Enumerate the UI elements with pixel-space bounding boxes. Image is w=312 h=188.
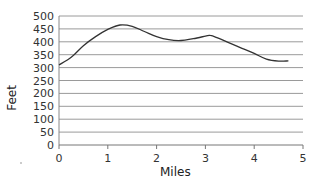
x-tick-label: 3 <box>202 152 209 165</box>
y-tick-label: 500 <box>33 10 54 23</box>
elevation-series-line <box>59 25 288 65</box>
y-axis-label: Feet <box>0 78 24 118</box>
y-axis-label-text: Feet <box>5 85 19 111</box>
y-tick-label: 250 <box>33 75 54 88</box>
y-tick-labels: 050100150200250300350400450500 <box>33 10 54 152</box>
x-tick-label: 2 <box>153 152 160 165</box>
y-tick-label: 50 <box>40 126 54 139</box>
y-tick-label: 300 <box>33 62 54 75</box>
x-tick-label: 1 <box>104 152 111 165</box>
y-tick-label: 350 <box>33 49 54 62</box>
x-tick-label: 0 <box>56 152 63 165</box>
stray-mark <box>20 162 22 164</box>
x-tick-labels: 012345 <box>56 152 307 165</box>
x-tick-label: 5 <box>300 152 307 165</box>
y-tick-label: 450 <box>33 23 54 36</box>
horizontal-gridlines <box>59 16 303 132</box>
y-tick-label: 150 <box>33 100 54 113</box>
x-axis-label: Miles <box>160 165 191 179</box>
y-tick-label: 100 <box>33 113 54 126</box>
y-tick-label: 200 <box>33 87 54 100</box>
y-tick-label: 0 <box>47 139 54 152</box>
elevation-line-chart: 050100150200250300350400450500 012345 <box>0 0 312 188</box>
y-tick-label: 400 <box>33 36 54 49</box>
x-tick-label: 4 <box>251 152 258 165</box>
